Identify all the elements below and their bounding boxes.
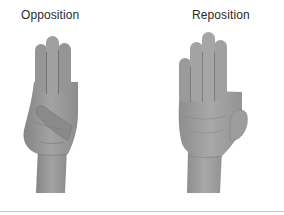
- hand-reposition-image: [168, 30, 268, 195]
- hand-opposition-image: [10, 30, 100, 195]
- label-opposition: Opposition: [21, 8, 79, 22]
- label-reposition: Reposition: [192, 8, 250, 22]
- divider-rule: [0, 211, 284, 212]
